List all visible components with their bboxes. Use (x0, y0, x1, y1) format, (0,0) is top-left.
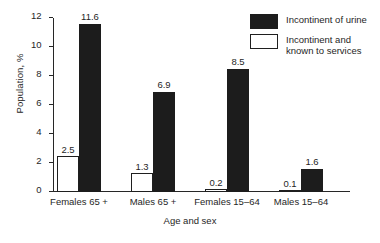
chart-figure: Population, % 024681012 2.511.61.36.90.2… (0, 0, 380, 243)
y-tick-label: 6 (36, 97, 41, 108)
y-tick-label: 4 (36, 126, 41, 137)
bar: 6.9 (153, 92, 175, 192)
bar-value-label: 0.2 (209, 177, 222, 188)
bar: 0.1 (279, 190, 301, 192)
legend-swatch-filled (250, 14, 278, 29)
bar-group: 1.36.9 (131, 18, 175, 192)
y-tick-label: 12 (31, 10, 42, 21)
legend-label: Incontinent of urine (286, 14, 367, 26)
bar-value-label: 1.3 (135, 161, 148, 172)
bar: 1.3 (131, 173, 153, 192)
x-category-label: Females 65 + (50, 196, 108, 207)
bar-value-label: 0.1 (283, 178, 296, 189)
y-tick: 12 (49, 17, 54, 18)
x-category-label: Females 15–64 (194, 196, 259, 207)
bar-value-label: 2.5 (61, 144, 74, 155)
x-category-label: Males 15–64 (274, 196, 328, 207)
y-tick: 6 (49, 104, 54, 105)
bar-value-label: 8.5 (231, 56, 244, 67)
chart-legend: Incontinent of urineIncontinent and know… (250, 14, 378, 61)
bar-value-label: 11.6 (81, 11, 99, 22)
bar: 2.5 (57, 156, 79, 192)
y-axis-title: Population, % (14, 29, 25, 139)
y-tick-label: 8 (36, 68, 41, 79)
x-category-label: Males 65 + (130, 196, 177, 207)
y-tick: 2 (49, 162, 54, 163)
bar: 8.5 (227, 69, 249, 192)
y-tick-label: 10 (31, 39, 42, 50)
y-tick: 4 (49, 133, 54, 134)
x-axis-title: Age and sex (0, 215, 380, 226)
y-tick: 10 (49, 46, 54, 47)
y-tick: 8 (49, 75, 54, 76)
legend-item: Incontinent and known to services (250, 34, 378, 56)
bar: 1.6 (301, 169, 323, 192)
bar-value-label: 6.9 (157, 79, 170, 90)
bar-value-label: 1.6 (305, 156, 318, 167)
y-axis-line (53, 18, 54, 192)
bar: 11.6 (79, 24, 101, 192)
legend-label: Incontinent and known to services (286, 34, 362, 56)
legend-swatch-hollow (250, 34, 278, 49)
y-tick-label: 2 (36, 155, 41, 166)
bar-group: 0.28.5 (205, 18, 249, 192)
bar: 0.2 (205, 189, 227, 192)
legend-item: Incontinent of urine (250, 14, 378, 29)
y-tick: 0 (49, 191, 54, 192)
y-tick-label: 0 (36, 184, 41, 195)
bar-group: 2.511.6 (57, 18, 101, 192)
